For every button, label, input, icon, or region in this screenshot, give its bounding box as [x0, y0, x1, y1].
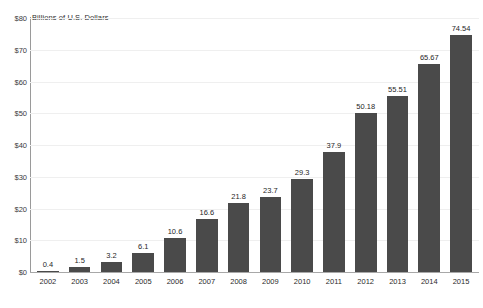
bar[interactable]	[101, 262, 123, 272]
bar-slot: 23.7	[254, 18, 286, 272]
y-axis-tick-label: $30	[1, 172, 27, 181]
y-axis-tick-label: $50	[1, 109, 27, 118]
x-axis-tick-label: 2005	[127, 275, 159, 291]
bar[interactable]	[418, 64, 440, 273]
x-axis-tick-label: 2004	[96, 275, 128, 291]
x-axis-tick-label: 2015	[445, 275, 477, 291]
bar-value-label: 74.54	[445, 24, 477, 33]
bar-chart: Billions of U.S. Dollars $80$70$60$50$40…	[0, 0, 483, 308]
bar[interactable]	[355, 113, 377, 272]
y-axis-tick-label: $80	[1, 14, 27, 23]
x-axis-tick-label: 2002	[32, 275, 64, 291]
x-axis-tick-label: 2014	[413, 275, 445, 291]
y-axis-tick-label: $60	[1, 77, 27, 86]
bar-slot: 10.6	[159, 18, 191, 272]
bar[interactable]	[450, 35, 472, 272]
bar[interactable]	[164, 238, 186, 272]
x-axis-tick-labels: 2002200320042005200620072008200920102011…	[30, 275, 479, 291]
y-axis-tick-label: $20	[1, 204, 27, 213]
x-axis-tick-label: 2006	[159, 275, 191, 291]
bar[interactable]	[387, 96, 409, 272]
plot-area: 0.41.53.26.110.616.621.823.729.337.950.1…	[30, 18, 479, 272]
bar-value-label: 0.4	[32, 260, 64, 269]
bar-slot: 21.8	[223, 18, 255, 272]
bar[interactable]	[37, 271, 59, 272]
bar-value-label: 65.67	[413, 53, 445, 62]
x-axis-tick-label: 2012	[350, 275, 382, 291]
bar-value-label: 37.9	[318, 141, 350, 150]
bar[interactable]	[69, 267, 91, 272]
y-axis-tick-label: $0	[1, 268, 27, 277]
x-axis-tick-label: 2008	[223, 275, 255, 291]
bar-value-label: 6.1	[127, 242, 159, 251]
bar-slot: 1.5	[64, 18, 96, 272]
x-axis-tick-label: 2007	[191, 275, 223, 291]
bar-value-label: 23.7	[254, 186, 286, 195]
bar[interactable]	[228, 203, 250, 272]
y-axis-tick-label: $70	[1, 45, 27, 54]
bar[interactable]	[196, 219, 218, 272]
bar-slot: 74.54	[445, 18, 477, 272]
bar-value-label: 21.8	[223, 192, 255, 201]
x-axis-tick-label: 2009	[254, 275, 286, 291]
bar[interactable]	[323, 152, 345, 272]
bar-slot: 65.67	[413, 18, 445, 272]
bar-slot: 50.18	[350, 18, 382, 272]
y-axis-tick-label: $10	[1, 236, 27, 245]
axis-baseline	[30, 272, 479, 273]
x-axis-tick-label: 2013	[382, 275, 414, 291]
bar-slot: 16.6	[191, 18, 223, 272]
bar-value-label: 3.2	[96, 251, 128, 260]
x-axis-tick-label: 2011	[318, 275, 350, 291]
y-axis-tick-labels: $80$70$60$50$40$30$20$10$0	[0, 18, 27, 272]
bar-value-label: 16.6	[191, 208, 223, 217]
bar-slot: 55.51	[382, 18, 414, 272]
bar-value-label: 50.18	[350, 102, 382, 111]
bar-series: 0.41.53.26.110.616.621.823.729.337.950.1…	[30, 18, 479, 272]
bar-slot: 29.3	[286, 18, 318, 272]
bar-slot: 0.4	[32, 18, 64, 272]
bar-slot: 6.1	[127, 18, 159, 272]
bar-value-label: 29.3	[286, 168, 318, 177]
bar-value-label: 10.6	[159, 227, 191, 236]
bar-slot: 37.9	[318, 18, 350, 272]
y-axis-tick-label: $40	[1, 141, 27, 150]
x-axis-tick-label: 2010	[286, 275, 318, 291]
bar[interactable]	[132, 253, 154, 272]
bar[interactable]	[291, 179, 313, 272]
x-axis-tick-label: 2003	[64, 275, 96, 291]
bar-slot: 3.2	[96, 18, 128, 272]
bar[interactable]	[260, 197, 282, 272]
bar-value-label: 1.5	[64, 256, 96, 265]
bar-value-label: 55.51	[382, 85, 414, 94]
